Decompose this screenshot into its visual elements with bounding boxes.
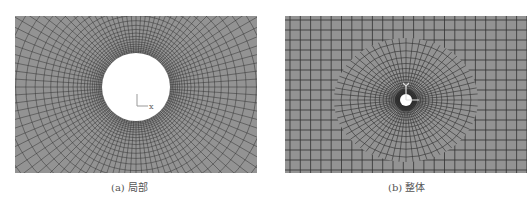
- local-mesh-image: x: [15, 16, 257, 173]
- caption-b: (b) 整体: [388, 179, 425, 194]
- axis-x-label: x: [149, 102, 154, 111]
- global-mesh-panel: [285, 16, 527, 173]
- caption-a: (a) 局部: [111, 179, 148, 194]
- global-mesh-image: [285, 16, 527, 173]
- local-mesh-panel: x: [15, 16, 257, 173]
